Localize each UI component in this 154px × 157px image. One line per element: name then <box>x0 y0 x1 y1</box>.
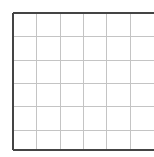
grid-lines <box>13 13 154 150</box>
empty-grid <box>0 0 154 157</box>
